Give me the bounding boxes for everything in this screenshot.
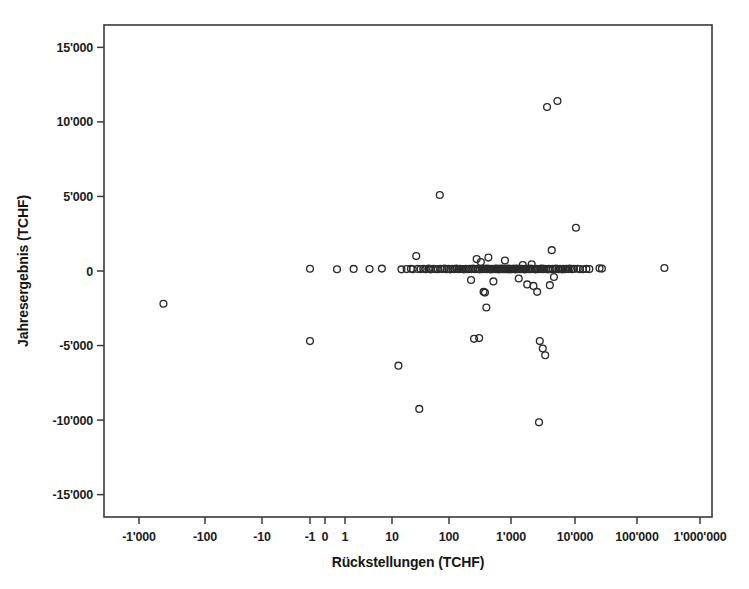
x-tick-label: 0 [322, 530, 329, 544]
data-point [490, 278, 497, 285]
data-point [661, 265, 668, 272]
data-point [536, 338, 543, 345]
data-point [485, 254, 492, 261]
data-point [416, 406, 423, 413]
y-tick-label: 10'000 [56, 115, 93, 129]
x-tick-label: -100 [193, 530, 217, 544]
x-tick-label: 1'000 [496, 530, 526, 544]
x-tick-label: 1'000'000 [674, 530, 727, 544]
data-point [539, 345, 546, 352]
y-tick-label: 5'000 [63, 190, 93, 204]
y-tick-label: -15'000 [53, 488, 94, 502]
data-point [378, 265, 385, 272]
x-tick-label: 10'000 [557, 530, 594, 544]
data-point [502, 257, 509, 264]
data-point [307, 265, 314, 272]
y-axis-title: Jahresergebnis (TCHF) [15, 195, 31, 347]
data-point [536, 419, 543, 426]
data-point [546, 282, 553, 289]
data-point [554, 98, 561, 105]
scatter-plot-figure: -1'000-100-10-101101001'00010'000100'000… [0, 0, 749, 589]
scatter-markers [160, 98, 668, 426]
data-point [395, 362, 402, 369]
data-point [551, 274, 558, 281]
x-tick-label: -1 [305, 530, 316, 544]
plot-canvas: -1'000-100-10-101101001'00010'000100'000… [0, 0, 749, 589]
data-point [544, 104, 551, 111]
x-tick-label: 100'000 [615, 530, 659, 544]
y-tick-label: -5'000 [59, 339, 93, 353]
data-point [160, 300, 167, 307]
x-axis-title: Rückstellungen (TCHF) [332, 554, 485, 570]
data-point [436, 192, 443, 199]
data-point [366, 266, 373, 273]
data-point [413, 253, 420, 260]
y-tick-label: -10'000 [53, 414, 94, 428]
x-tick-label: 1 [342, 530, 349, 544]
y-tick-label: 15'000 [56, 41, 93, 55]
data-point [548, 247, 555, 254]
x-tick-label: -10 [253, 530, 271, 544]
y-tick-label: 0 [86, 265, 93, 279]
data-point [542, 352, 549, 359]
x-tick-label: 10 [385, 530, 399, 544]
y-axis-ticks: 15'00010'0005'0000-5'000-10'000-15'000 [53, 41, 105, 502]
data-point [468, 277, 475, 284]
data-point [515, 275, 522, 282]
data-point [307, 338, 314, 345]
x-axis-ticks: -1'000-100-10-101101001'00010'000100'000… [122, 517, 727, 544]
data-point [483, 304, 490, 311]
data-point [573, 224, 580, 231]
data-point [350, 266, 357, 273]
data-point [534, 288, 541, 295]
x-tick-label: -1'000 [122, 530, 156, 544]
x-tick-label: 100 [439, 530, 460, 544]
data-point [334, 266, 341, 273]
